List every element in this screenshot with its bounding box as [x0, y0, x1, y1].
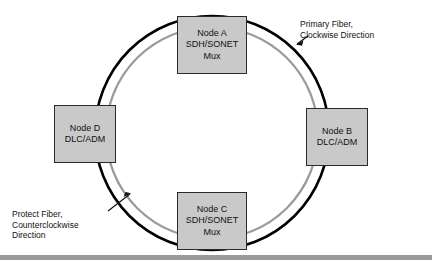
protect-fiber-annotation-line-1: Protect Fiber,	[12, 209, 79, 220]
diagram-canvas: Node A SDH/SONET Mux Node B DLC/ADM Node…	[0, 0, 432, 270]
node-a-line-1: Node A	[197, 28, 227, 40]
node-c-line-3: Mux	[203, 227, 220, 239]
node-c-line-1: Node C	[197, 204, 228, 216]
protect-fiber-annotation-line-2: Counterclockwise	[12, 220, 79, 231]
node-d-line-2: DLC/ADM	[65, 134, 106, 146]
node-d-line-1: Node D	[70, 123, 101, 135]
bottom-divider-bar	[0, 255, 432, 260]
node-b[interactable]: Node B DLC/ADM	[306, 108, 368, 166]
primary-fiber-annotation-line-1: Primary Fiber,	[300, 19, 374, 30]
node-c-line-2: SDH/SONET	[186, 215, 239, 227]
node-c[interactable]: Node C SDH/SONET Mux	[177, 192, 247, 250]
node-a-line-2: SDH/SONET	[186, 39, 239, 51]
primary-fiber-annotation-line-2: Clockwise Direction	[300, 30, 374, 41]
node-b-line-2: DLC/ADM	[317, 137, 358, 149]
node-a-line-3: Mux	[203, 51, 220, 63]
primary-fiber-annotation: Primary Fiber, Clockwise Direction	[300, 19, 374, 40]
node-d[interactable]: Node D DLC/ADM	[54, 105, 116, 163]
node-a[interactable]: Node A SDH/SONET Mux	[177, 16, 247, 74]
node-b-line-1: Node B	[322, 126, 352, 138]
protect-fiber-annotation-line-3: Direction	[12, 230, 79, 241]
protect-fiber-annotation: Protect Fiber, Counterclockwise Directio…	[12, 209, 79, 241]
